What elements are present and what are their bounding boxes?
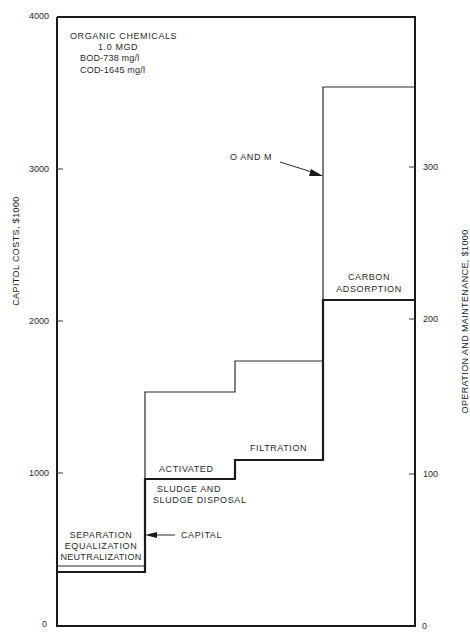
label-carbon: CARBON (323, 272, 415, 282)
om-arrowhead (309, 169, 323, 176)
legend-capital: CAPITAL (181, 530, 222, 540)
label-sludge-and: SLUDGE AND (157, 484, 221, 494)
left-tick-2000: 2000 (29, 316, 49, 326)
annotation-cod: COD-1645 mg/l (80, 65, 145, 75)
label-equalization: EQUALIZATION (57, 541, 145, 551)
label-sludge-disposal: SLUDGE DISPOSAL (153, 495, 247, 505)
left-tick-4000: 4000 (29, 11, 49, 21)
label-adsorption: ADSORPTION (323, 284, 415, 294)
annotation-flow: 1.0 MGD (98, 42, 138, 52)
label-filtration: FILTRATION (250, 443, 307, 453)
left-tick-3000: 3000 (29, 164, 49, 174)
label-activated: ACTIVATED (159, 464, 214, 474)
left-tick-1000: 1000 (29, 468, 49, 478)
right-tick-0: 0 (422, 621, 427, 631)
right-tick-300: 300 (423, 162, 438, 172)
right-tick-200: 200 (423, 314, 438, 324)
capital-arrowhead (145, 532, 157, 538)
legend-o-and-m: O AND M (230, 152, 272, 162)
annotation-title: ORGANIC CHEMICALS (70, 31, 177, 41)
label-neutralization: NEUTRALIZATION (57, 552, 145, 562)
right-tick-100: 100 (423, 469, 438, 479)
annotation-bod: BOD-738 mg/l (80, 53, 139, 63)
right-axis-title: OPERATION AND MAINTENANCE, $1000 (460, 239, 470, 414)
label-separation: SEPARATION (57, 530, 145, 540)
left-axis-title: CAPITOL COSTS, $1000 (11, 196, 21, 306)
left-tick-0: 0 (42, 619, 47, 629)
